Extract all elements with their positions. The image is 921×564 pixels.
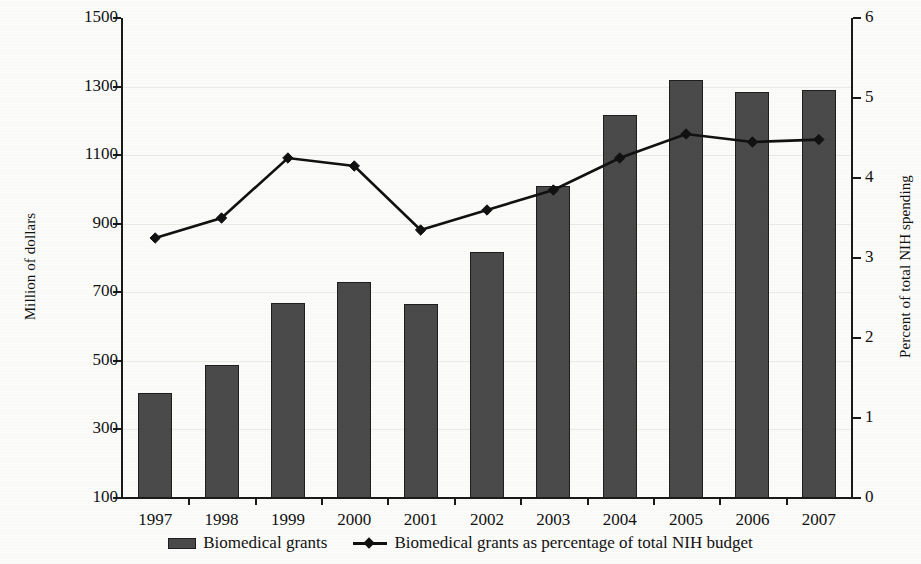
x-tick-3: [321, 497, 323, 505]
marker-1997: [150, 233, 160, 243]
chart-container: Million of dollars Percent of total NIH …: [0, 0, 921, 564]
x-ticklabel-2006: 2006: [717, 510, 787, 530]
legend-label-percentage: Biomedical grants as percentage of total…: [394, 533, 752, 553]
right-ticklabel-2: 2: [865, 327, 905, 347]
marker-2004: [615, 153, 625, 163]
left-axis-title: Million of dollars: [22, 157, 39, 377]
legend-label-biomedical-grants: Biomedical grants: [203, 533, 327, 553]
x-tick-8: [653, 497, 655, 505]
left-ticklabel-1100: 1100: [48, 144, 118, 164]
x-tick-6: [520, 497, 522, 505]
chart-legend: Biomedical grants Biomedical grants as p…: [0, 533, 921, 553]
left-ticklabel-900: 900: [48, 213, 118, 233]
x-tick-2: [255, 497, 257, 505]
x-ticklabel-1999: 1999: [253, 510, 323, 530]
right-tick-4: [853, 177, 861, 179]
marker-2006: [747, 137, 757, 147]
right-tick-0: [853, 497, 861, 499]
bottom-axis-spine: [121, 497, 853, 499]
left-axis-spine: [121, 18, 123, 499]
right-tick-3: [853, 257, 861, 259]
x-ticklabel-2002: 2002: [452, 510, 522, 530]
x-ticklabel-2007: 2007: [784, 510, 854, 530]
x-ticklabel-2000: 2000: [319, 510, 389, 530]
legend-bar-swatch-icon: [168, 538, 196, 549]
marker-2003: [548, 185, 558, 195]
x-ticklabel-2004: 2004: [585, 510, 655, 530]
right-ticklabel-3: 3: [865, 247, 905, 267]
legend-item-percentage: Biomedical grants as percentage of total…: [353, 533, 752, 553]
line-series-layer: [122, 18, 852, 499]
legend-item-biomedical-grants: Biomedical grants: [168, 533, 327, 553]
marker-2007: [814, 134, 824, 144]
x-tick-10: [786, 497, 788, 505]
x-ticklabel-2001: 2001: [386, 510, 456, 530]
right-tick-6: [853, 17, 861, 19]
right-tick-1: [853, 417, 861, 419]
right-tick-2: [853, 337, 861, 339]
x-ticklabel-1997: 1997: [120, 510, 190, 530]
right-ticklabel-4: 4: [865, 167, 905, 187]
left-ticklabel-1300: 1300: [48, 76, 118, 96]
marker-2005: [681, 129, 691, 139]
left-ticklabel-100: 100: [48, 487, 118, 507]
right-ticklabel-5: 5: [865, 87, 905, 107]
x-tick-5: [454, 497, 456, 505]
x-ticklabel-2003: 2003: [518, 510, 588, 530]
right-ticklabel-0: 0: [865, 487, 905, 507]
percentage-line: [155, 134, 819, 238]
x-tick-7: [587, 497, 589, 505]
right-ticklabel-1: 1: [865, 407, 905, 427]
x-tick-9: [719, 497, 721, 505]
marker-2002: [482, 205, 492, 215]
x-tick-4: [387, 497, 389, 505]
percentage-markers: [150, 129, 824, 243]
left-ticklabel-500: 500: [48, 350, 118, 370]
left-ticklabel-700: 700: [48, 281, 118, 301]
left-ticklabel-300: 300: [48, 418, 118, 438]
plot-area: 150013001100900700500300100 6543210 1997…: [122, 18, 852, 498]
right-ticklabel-6: 6: [865, 7, 905, 27]
legend-line-diamond-icon: [353, 537, 387, 549]
right-tick-5: [853, 97, 861, 99]
x-tick-1: [188, 497, 190, 505]
left-ticklabel-1500: 1500: [48, 7, 118, 27]
x-ticklabel-1998: 1998: [187, 510, 257, 530]
x-ticklabel-2005: 2005: [651, 510, 721, 530]
